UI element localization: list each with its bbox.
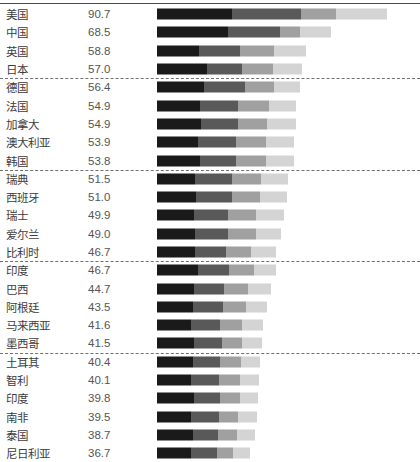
ranking-row: 爱尔兰49.0: [0, 225, 420, 243]
bar-segment-1: [157, 448, 191, 459]
score-value: 43.5: [88, 301, 110, 313]
bar-track: [157, 228, 411, 239]
bar-segment-4: [237, 429, 255, 440]
ranking-row: 马来西亚41.6: [0, 316, 420, 334]
bar-segment-2: [228, 27, 280, 38]
bar-segment-1: [157, 393, 194, 404]
bar-segment-4: [336, 9, 387, 20]
score-value: 46.7: [88, 246, 110, 258]
bar-segment-4: [267, 118, 296, 129]
bar-track: [157, 137, 411, 148]
stacked-bar: [157, 320, 263, 331]
ranking-row: 巴西44.7: [0, 279, 420, 297]
bar-track: [157, 265, 411, 276]
bar-track: [157, 192, 411, 203]
bar-segment-4: [251, 247, 276, 258]
bar-segment-2: [198, 137, 236, 148]
top-border-rule: [0, 3, 420, 4]
country-label: 尼日利亚: [6, 445, 50, 461]
bar-segment-3: [242, 64, 272, 75]
bar-segment-1: [157, 320, 191, 331]
ranking-row: 加拿大54.9: [0, 115, 420, 133]
bar-segment-1: [157, 45, 199, 56]
score-value: 41.6: [88, 319, 110, 331]
bar-segment-2: [204, 82, 245, 93]
bar-segment-3: [228, 228, 256, 239]
bar-track: [157, 338, 411, 349]
score-value: 51.5: [88, 173, 110, 185]
bar-segment-4: [273, 64, 302, 75]
ranking-row: 南非39.5: [0, 408, 420, 426]
stacked-bar: [157, 118, 296, 129]
bar-segment-2: [198, 265, 230, 276]
stacked-bar: [157, 100, 296, 111]
bar-segment-4: [254, 265, 276, 276]
bar-segment-2: [195, 173, 232, 184]
country-label: 法国: [6, 98, 28, 114]
ranking-row: 西班牙51.0: [0, 188, 420, 206]
bar-segment-4: [266, 137, 294, 148]
country-label: 瑞典: [6, 171, 28, 187]
bar-track: [157, 411, 411, 422]
score-value: 38.7: [88, 429, 110, 441]
bar-segment-1: [157, 118, 201, 129]
bar-segment-2: [193, 429, 218, 440]
bar-segment-4: [248, 283, 270, 294]
bar-segment-2: [194, 283, 224, 294]
ranking-row: 印度46.7: [0, 261, 420, 279]
bar-segment-4: [260, 192, 287, 203]
stacked-bar: [157, 247, 276, 258]
ranking-row-list: 美国90.7中国68.5英国58.8日本57.0德国56.4法国54.9加拿大5…: [0, 5, 420, 462]
bar-segment-1: [157, 283, 194, 294]
stacked-bar: [157, 448, 250, 459]
bar-track: [157, 320, 411, 331]
score-value: 56.4: [88, 81, 110, 93]
bar-segment-2: [191, 320, 220, 331]
bar-segment-2: [196, 192, 232, 203]
score-value: 49.9: [88, 209, 110, 221]
ranking-row: 泰国38.7: [0, 426, 420, 444]
score-value: 46.7: [88, 264, 110, 276]
ranking-row: 印度39.8: [0, 389, 420, 407]
bar-segment-1: [157, 155, 200, 166]
stacked-bar: [157, 27, 331, 38]
bar-segment-2: [200, 100, 238, 111]
stacked-bar: [157, 265, 276, 276]
bar-track: [157, 448, 411, 459]
ranking-row: 比利时46.7: [0, 243, 420, 261]
bar-segment-3: [219, 375, 239, 386]
stacked-bar: [157, 64, 302, 75]
ranking-row: 英国58.8: [0, 42, 420, 60]
bar-segment-2: [200, 155, 236, 166]
score-value: 57.0: [88, 63, 110, 75]
bar-segment-3: [220, 356, 240, 367]
bar-track: [157, 9, 411, 20]
stacked-bar: [157, 375, 259, 386]
bar-segment-4: [240, 375, 259, 386]
bar-segment-4: [241, 356, 260, 367]
country-label: 爱尔兰: [6, 226, 39, 242]
bar-segment-4: [274, 45, 307, 56]
country-label: 泰国: [6, 427, 28, 443]
country-label: 加拿大: [6, 116, 39, 132]
bar-segment-2: [191, 375, 219, 386]
bar-segment-2: [232, 9, 301, 20]
bar-track: [157, 45, 411, 56]
bar-track: [157, 27, 411, 38]
stacked-bar: [157, 137, 294, 148]
bar-track: [157, 356, 411, 367]
country-label: 印度: [6, 390, 28, 406]
score-value: 58.8: [88, 45, 110, 57]
bar-segment-1: [157, 429, 193, 440]
bar-segment-1: [157, 301, 193, 312]
country-label: 德国: [6, 79, 28, 95]
country-label: 英国: [6, 43, 28, 59]
country-label: 中国: [6, 24, 28, 40]
ranking-row: 韩国53.8: [0, 151, 420, 169]
bar-segment-2: [193, 356, 221, 367]
bar-track: [157, 301, 411, 312]
bar-track: [157, 283, 411, 294]
score-value: 53.8: [88, 155, 110, 167]
bar-track: [157, 247, 411, 258]
